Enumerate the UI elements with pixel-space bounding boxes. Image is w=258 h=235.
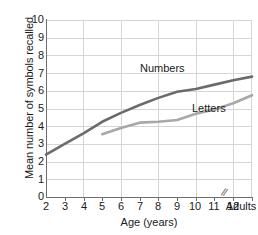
chart-container: Mean number of symbols recalled 10 9 8 7…: [0, 0, 258, 235]
series-label-letters: Letters: [192, 102, 226, 114]
x-axis-title: Age (years): [46, 216, 252, 228]
x-tick-label-4: 4: [77, 200, 91, 213]
x-tick-label-7: 7: [133, 200, 147, 213]
x-tick-label-10: 10: [186, 200, 204, 213]
series-label-numbers: Numbers: [140, 62, 185, 74]
x-tick-label-11: 11: [205, 200, 223, 213]
numbers-series-line: [46, 77, 252, 155]
x-tick-label-3: 3: [58, 200, 72, 213]
letters-series-line: [102, 95, 252, 134]
x-tick-label-6: 6: [114, 200, 128, 213]
x-tick-label-2: 2: [39, 200, 53, 213]
x-tick-label-5: 5: [95, 200, 109, 213]
x-tick-label-9: 9: [170, 200, 184, 213]
x-tick-label-8: 8: [151, 200, 165, 213]
x-tick-label-adults: Adults: [224, 200, 258, 213]
